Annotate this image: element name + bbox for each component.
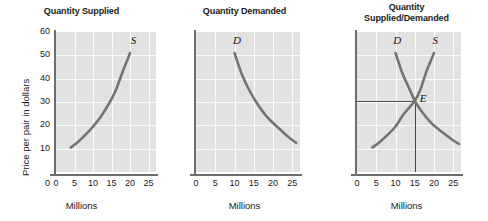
x-axis-label: Millions: [0, 200, 163, 211]
gridline-horizontal: [56, 149, 156, 150]
gridline-horizontal: [56, 125, 156, 126]
x-tick-label: 10: [387, 178, 405, 188]
y-tick-label: 30: [32, 96, 50, 106]
x-axis-line: [351, 174, 463, 176]
gridline-horizontal: [56, 102, 156, 103]
equilibrium-quantity-guide-line: [415, 101, 416, 172]
gridline-horizontal: [56, 79, 156, 80]
gridline-horizontal: [196, 102, 300, 103]
plot-area: [56, 32, 156, 172]
x-axis-label: Millions: [163, 200, 326, 211]
x-axis-label: Millions: [325, 200, 488, 211]
gridline-horizontal: [357, 55, 461, 56]
panel-title-line-1: Quantity: [325, 2, 488, 13]
x-tick-label: 15: [245, 178, 263, 188]
y-tick-label: 10: [32, 143, 50, 153]
y-tick-label: 50: [32, 49, 50, 59]
x-tick-label: 10: [226, 178, 244, 188]
plot-area: [196, 32, 300, 172]
x-tick-label: 0: [187, 178, 205, 188]
x-tick-label: 0: [348, 178, 366, 188]
y-tick-label: 20: [32, 119, 50, 129]
gridline-horizontal: [196, 79, 300, 80]
x-tick-label: 25: [444, 178, 462, 188]
chart-panel-quantity-supplied: Quantity Supplied Price per pair in doll…: [0, 0, 163, 221]
x-tick-label: 10: [84, 178, 102, 188]
x-tick-label: 5: [206, 178, 224, 188]
chart-panel-quantity-demanded: Quantity Demanded Millions 0510152025D: [163, 0, 326, 221]
gridline-horizontal: [196, 125, 300, 126]
x-tick-label: 5: [66, 178, 84, 188]
panel-title-line-2: Supplied/Demanded: [325, 13, 488, 24]
x-tick-label: 20: [121, 178, 139, 188]
x-tick-label: 5: [367, 178, 385, 188]
gridline-horizontal: [357, 149, 461, 150]
x-tick-label: 25: [283, 178, 301, 188]
plot-area: [357, 32, 461, 172]
curve-label-d: D: [393, 34, 401, 46]
x-tick-label: 25: [140, 178, 158, 188]
gridline-horizontal: [196, 55, 300, 56]
y-tick-label: 60: [32, 26, 50, 36]
origin-tick-label: 0: [32, 178, 50, 188]
x-tick-label: 15: [406, 178, 424, 188]
x-axis-line: [50, 174, 158, 176]
panel-title: Quantity Demanded: [163, 6, 326, 17]
gridline-horizontal: [357, 79, 461, 80]
equilibrium-price-guide-line: [357, 101, 415, 102]
curve-label-s: S: [131, 34, 137, 46]
gridline-horizontal: [56, 55, 156, 56]
y-tick-label: 40: [32, 73, 50, 83]
panel-title: Quantity Supplied/Demanded: [325, 2, 488, 24]
chart-panel-quantity-supplied-demanded: Quantity Supplied/Demanded Millions 0510…: [325, 0, 488, 221]
x-axis-line: [190, 174, 302, 176]
y-axis-line: [54, 30, 56, 176]
gridline-horizontal: [357, 102, 461, 103]
panel-title: Quantity Supplied: [0, 6, 163, 17]
economics-supply-demand-figure: Quantity Supplied Price per pair in doll…: [0, 0, 488, 221]
y-axis-line: [355, 30, 357, 176]
gridline-horizontal: [357, 125, 461, 126]
curve-label-s: S: [432, 34, 438, 46]
x-tick-label: 20: [264, 178, 282, 188]
curve-label-d: D: [233, 34, 241, 46]
gridline-horizontal: [196, 149, 300, 150]
equilibrium-label: E: [420, 92, 427, 104]
x-tick-label: 15: [103, 178, 121, 188]
y-axis-label: Price per pair in dollars: [20, 79, 31, 176]
y-axis-line: [194, 30, 196, 176]
x-tick-label: 20: [425, 178, 443, 188]
